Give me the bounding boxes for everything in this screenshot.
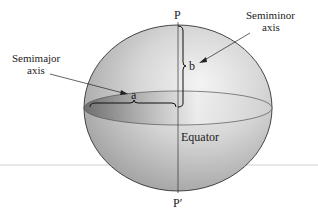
semiminor-title-line1: Semiminor	[246, 9, 295, 21]
south-pole-label: P′	[173, 196, 183, 210]
semiminor-title-line2: axis	[262, 21, 280, 33]
semimajor-title-line1: Semimajor	[12, 52, 61, 64]
semimajor-title-line2: axis	[27, 64, 45, 76]
semiminor-symbol: b	[189, 59, 195, 73]
ellipsoid-diagram: P P′ Semiminor axis Semimajor axis a b E…	[0, 0, 318, 216]
north-pole-label: P	[174, 8, 181, 22]
equator-label: Equator	[181, 130, 219, 144]
semimajor-symbol: a	[131, 88, 137, 102]
